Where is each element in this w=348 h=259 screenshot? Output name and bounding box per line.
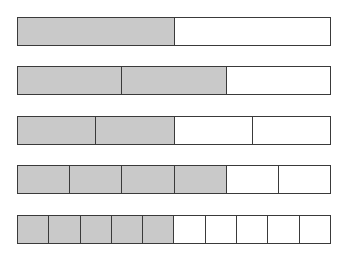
shaded-segment xyxy=(112,216,143,243)
fraction-bar xyxy=(17,116,331,145)
shaded-segment xyxy=(175,166,227,193)
fraction-bar-diagram xyxy=(0,0,348,259)
fraction-bar xyxy=(17,66,331,95)
shaded-segment xyxy=(143,216,174,243)
unshaded-segment xyxy=(227,67,330,94)
fraction-bar xyxy=(17,165,331,194)
unshaded-segment xyxy=(174,216,205,243)
shaded-segment xyxy=(18,166,70,193)
shaded-segment xyxy=(18,216,49,243)
unshaded-segment xyxy=(175,117,253,144)
shaded-segment xyxy=(122,67,226,94)
shaded-segment xyxy=(18,117,96,144)
shaded-segment xyxy=(49,216,80,243)
shaded-segment xyxy=(96,117,174,144)
unshaded-segment xyxy=(206,216,237,243)
shaded-segment xyxy=(18,67,122,94)
shaded-segment xyxy=(81,216,112,243)
shaded-segment xyxy=(18,18,175,45)
unshaded-segment xyxy=(279,166,330,193)
unshaded-segment xyxy=(300,216,330,243)
fraction-bar xyxy=(17,17,331,46)
fraction-bar xyxy=(17,215,331,244)
unshaded-segment xyxy=(268,216,299,243)
shaded-segment xyxy=(70,166,122,193)
unshaded-segment xyxy=(237,216,268,243)
unshaded-segment xyxy=(227,166,279,193)
unshaded-segment xyxy=(175,18,331,45)
unshaded-segment xyxy=(253,117,330,144)
shaded-segment xyxy=(122,166,174,193)
